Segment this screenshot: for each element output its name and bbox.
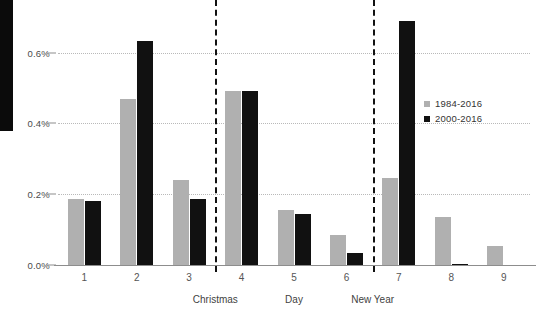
legend: 1984-2016 2000-2016	[424, 96, 482, 126]
y-axis-tick-mark	[47, 194, 56, 195]
bar[interactable]	[173, 180, 189, 265]
event-divider-label: New Year	[351, 294, 394, 305]
chart-canvas: 0.0%0.2%0.4%0.6% 123456789 ChristmasNew …	[0, 0, 545, 311]
legend-label: 2000-2016	[435, 113, 482, 124]
bar-group: 5	[278, 10, 311, 265]
x-axis-tick-label: 8	[434, 272, 468, 283]
legend-label: 1984-2016	[435, 98, 482, 109]
scan-edge-artifact	[0, 0, 13, 131]
plot-area: 0.0%0.2%0.4%0.6% 123456789 ChristmasNew …	[58, 10, 530, 265]
x-axis-tick-label: 4	[225, 272, 259, 283]
bar-group: 6	[330, 10, 363, 265]
bar[interactable]	[242, 91, 258, 265]
bar[interactable]	[330, 235, 346, 265]
y-axis-tick-mark	[47, 123, 56, 124]
bar-group: 4	[225, 10, 258, 265]
bar-group: 2	[120, 10, 153, 265]
bar[interactable]	[137, 41, 153, 265]
bar[interactable]	[399, 21, 415, 265]
bar[interactable]	[190, 199, 206, 265]
legend-swatch-icon	[424, 116, 430, 122]
event-divider-line	[373, 0, 375, 272]
bar[interactable]	[347, 253, 363, 265]
bar[interactable]	[68, 199, 84, 265]
bar-group: 7	[382, 10, 415, 265]
legend-swatch-icon	[424, 101, 430, 107]
bar[interactable]	[295, 214, 311, 265]
x-axis-title: Day	[285, 294, 303, 305]
bar-group: 1	[68, 10, 101, 265]
x-axis-tick-label: 7	[382, 272, 416, 283]
x-axis-tick-label: 1	[67, 272, 101, 283]
x-axis-tick-label: 6	[329, 272, 363, 283]
bar[interactable]	[452, 264, 468, 265]
legend-item[interactable]: 1984-2016	[424, 96, 482, 111]
bar-group: 9	[487, 10, 520, 265]
bar-group: 3	[173, 10, 206, 265]
bar-groups: 123456789	[58, 10, 530, 265]
x-axis-tick-label: 5	[277, 272, 311, 283]
bar[interactable]	[487, 246, 503, 265]
bar[interactable]	[382, 178, 398, 265]
bar[interactable]	[120, 99, 136, 265]
bar[interactable]	[225, 91, 241, 265]
x-axis-tick-label: 2	[120, 272, 154, 283]
x-axis-tick-label: 3	[172, 272, 206, 283]
bar-group: 8	[435, 10, 468, 265]
event-divider-label: Christmas	[193, 294, 238, 305]
bar[interactable]	[85, 201, 101, 265]
x-axis-tick-label: 9	[487, 272, 521, 283]
x-axis-line	[54, 265, 536, 266]
event-divider-line	[215, 0, 217, 272]
y-axis-tick-mark	[47, 52, 56, 53]
legend-item[interactable]: 2000-2016	[424, 111, 482, 126]
bar[interactable]	[278, 210, 294, 265]
bar[interactable]	[435, 217, 451, 265]
